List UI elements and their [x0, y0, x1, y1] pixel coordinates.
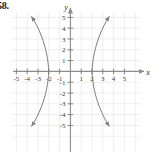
x-tick-label: -5	[13, 75, 19, 83]
y-tick-label: -5	[60, 122, 66, 130]
y-tick-label: 3	[62, 36, 66, 44]
x-tick-label: 5	[123, 75, 127, 83]
coordinate-plane-figure: -5 -4 -3 -2 -1 1 2 3 4 5 5 4 3 2 1 -1 -2…	[0, 0, 159, 165]
y-tick-labels: 5 4 3 2 1 -1 -2 -3 -4 -5	[60, 14, 66, 130]
x-tick-label: -2	[46, 75, 52, 83]
x-tick-label: -4	[24, 75, 30, 83]
x-tick-label: 3	[101, 75, 105, 83]
x-tick-label: 4	[112, 75, 116, 83]
figure-screenshot: 58.	[0, 0, 159, 165]
x-tick-label: -3	[35, 75, 41, 83]
y-tick-label: 4	[62, 25, 66, 33]
y-tick-label: -2	[60, 90, 66, 98]
left-branch-upper	[32, 17, 49, 72]
y-tick-label: 5	[62, 14, 66, 22]
y-tick-label: -1	[60, 79, 66, 87]
right-branch-upper	[92, 17, 109, 72]
grid-lines	[12, 12, 140, 152]
y-tick-label: 1	[62, 57, 66, 65]
x-tick-label: 1	[79, 75, 83, 83]
x-axis-label: x	[145, 68, 150, 77]
y-axis-label: y	[63, 3, 68, 12]
y-tick-label: -4	[60, 111, 66, 119]
y-tick-label: 2	[62, 46, 66, 54]
y-tick-label: -3	[60, 100, 66, 108]
